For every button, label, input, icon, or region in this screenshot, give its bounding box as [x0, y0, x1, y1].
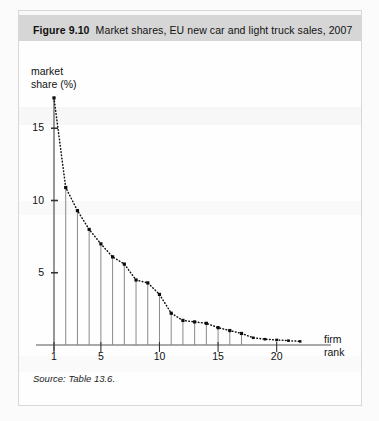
data-point: [52, 96, 55, 99]
x-tick-label: 20: [266, 350, 288, 362]
data-point: [88, 228, 91, 231]
data-point: [287, 339, 290, 342]
data-point: [99, 242, 102, 245]
x-tick-label: 15: [207, 350, 229, 362]
dropline-group: [54, 98, 242, 345]
x-axis-title-line2: rank: [324, 346, 344, 359]
y-tick-label: 15: [22, 121, 44, 133]
data-point: [216, 326, 219, 329]
data-point: [146, 281, 149, 284]
y-axis-title: market share (%): [31, 65, 77, 91]
data-point: [134, 278, 137, 281]
x-axis-title: firm rank: [324, 333, 344, 359]
data-point: [170, 312, 173, 315]
data-point: [181, 319, 184, 322]
data-point: [76, 209, 79, 212]
data-point: [193, 320, 196, 323]
data-point: [275, 339, 278, 342]
data-point-group: [52, 96, 301, 342]
connector-line-group: [54, 98, 300, 341]
x-tick-label: 5: [90, 350, 112, 362]
data-point: [228, 329, 231, 332]
y-tick-label: 10: [22, 194, 44, 206]
data-point: [158, 293, 161, 296]
data-point: [64, 186, 67, 189]
figure-container: Figure 9.10 Market shares, EU new car an…: [18, 10, 362, 406]
chart-plot-area: market share (%) firm rank 5101515101520: [19, 11, 362, 406]
data-point: [299, 340, 302, 343]
y-axis-title-line2: share (%): [31, 78, 77, 91]
data-point: [252, 336, 255, 339]
data-point: [264, 338, 267, 341]
scan-page-background: Figure 9.10 Market shares, EU new car an…: [0, 0, 379, 421]
data-point: [240, 332, 243, 335]
connector-line: [54, 98, 300, 341]
data-point: [205, 322, 208, 325]
x-axis-title-line1: firm: [324, 333, 344, 346]
x-tick-label: 10: [148, 350, 170, 362]
data-point: [123, 262, 126, 265]
y-tick-label: 5: [22, 266, 44, 278]
figure-source-note: Source: Table 13.6.: [33, 373, 115, 384]
data-point: [111, 255, 114, 258]
y-axis-title-line1: market: [31, 65, 77, 78]
x-tick-label: 1: [43, 350, 65, 362]
